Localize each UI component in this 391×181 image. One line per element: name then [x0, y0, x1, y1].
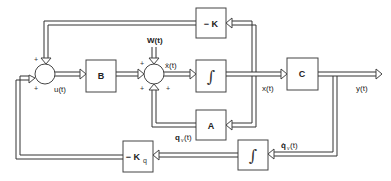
block-integrator-2: ∫ [238, 140, 268, 170]
block-b-label: B [98, 71, 105, 81]
block-neg-kq-label: − K [126, 152, 141, 162]
block-integrator-1: ∫ [196, 60, 226, 92]
signal-u-label: u(t) [54, 85, 66, 94]
sign-plus: + [34, 56, 38, 63]
signal-qv-label: q v (t) [175, 133, 192, 143]
sign-plus: + [140, 85, 144, 92]
signal-xdot-label: ẋ(t) [165, 61, 177, 70]
block-neg-k-label: − K [204, 19, 219, 29]
block-c: C [287, 58, 318, 90]
signal-x-label: x(t) [262, 84, 274, 93]
block-a: A [196, 110, 226, 140]
block-neg-kq-subscript: q [143, 157, 147, 165]
block-diagram: B − K ∫ C A ∫ − K q [0, 0, 391, 181]
summing-junction-2 [144, 64, 164, 84]
qv-symbol: q [175, 133, 180, 142]
summing-junction-1 [35, 64, 55, 84]
integral-icon: ∫ [207, 67, 215, 86]
sign-plus: + [140, 60, 144, 67]
signal-qv-dot-label: q̇ v (t) [281, 141, 298, 151]
qv-dot-arg: (t) [290, 141, 298, 150]
qv-arg: (t) [184, 133, 192, 142]
qv-dot-symbol: q̇ [281, 141, 286, 150]
block-a-label: A [208, 121, 215, 131]
block-b: B [86, 60, 116, 92]
block-c-label: C [299, 69, 306, 79]
block-neg-kq: − K q [123, 141, 153, 172]
integral-icon: ∫ [249, 146, 257, 165]
signal-w-label: W(t) [147, 36, 163, 45]
sign-plus: + [166, 85, 170, 92]
block-neg-k: − K [196, 8, 226, 38]
signal-y-label: y(t) [356, 84, 368, 93]
sign-plus: + [34, 85, 38, 92]
